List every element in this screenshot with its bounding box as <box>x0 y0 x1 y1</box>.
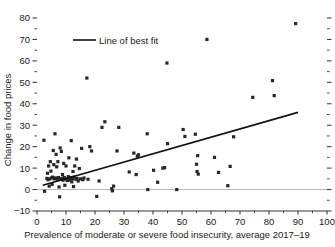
x-tick-label: 20 <box>90 216 101 227</box>
scatter-point <box>55 165 58 168</box>
y-axis-title: Change in food prices <box>2 74 13 167</box>
x-tick-label: 10 <box>61 216 72 227</box>
y-tick-label: 40 <box>19 98 30 109</box>
scatter-point <box>163 166 166 169</box>
y-tick-label: 0 <box>25 184 30 195</box>
scatter-point <box>100 126 103 129</box>
scatter-point <box>42 139 45 142</box>
y-tick-label: 30 <box>19 120 30 131</box>
x-axis-tick-labels: 0102030405060708090100 <box>34 216 335 227</box>
y-tick-label: 70 <box>19 34 30 45</box>
scatter-point <box>166 142 169 145</box>
legend-label-line-of-best-fit: Line of best fit <box>99 35 159 46</box>
scatter-point <box>146 188 149 191</box>
scatter-point <box>229 165 232 168</box>
chart-legend: Line of best fit <box>73 35 159 46</box>
x-axis-title: Prevalence of moderate or severe food in… <box>24 229 310 240</box>
scatter-point <box>251 96 254 99</box>
scatter-chart-figure: −1001020304050607080 0102030405060708090… <box>0 0 335 247</box>
scatter-point <box>52 149 55 152</box>
scatter-point <box>82 176 85 179</box>
x-tick-label: 50 <box>177 216 188 227</box>
scatter-point <box>67 156 70 159</box>
scatter-point <box>48 185 51 188</box>
y-tick-label: 50 <box>19 77 30 88</box>
scatter-point <box>152 169 155 172</box>
scatter-point <box>49 170 52 173</box>
scatter-point <box>73 164 76 167</box>
y-tick-label: −10 <box>14 205 30 216</box>
scatter-point <box>57 185 60 188</box>
scatter-point <box>88 145 91 148</box>
chart-canvas: −1001020304050607080 0102030405060708090… <box>0 0 335 247</box>
scatter-point <box>43 190 46 193</box>
scatter-point <box>156 181 159 184</box>
scatter-point <box>226 184 229 187</box>
scatter-point <box>115 149 118 152</box>
scatter-point <box>197 173 200 176</box>
scatter-point <box>135 173 138 176</box>
scatter-point <box>47 164 50 167</box>
y-axis-minor-ticks <box>34 29 37 201</box>
scatter-point <box>132 152 135 155</box>
scatter-points-group <box>42 22 297 198</box>
y-tick-label: 60 <box>19 55 30 66</box>
x-tick-label: 40 <box>148 216 159 227</box>
scatter-point <box>205 38 208 41</box>
scatter-point <box>58 195 61 198</box>
scatter-point <box>213 156 216 159</box>
scatter-point <box>273 94 276 97</box>
scatter-point <box>78 167 81 170</box>
x-tick-label: 30 <box>119 216 130 227</box>
scatter-point <box>55 153 58 156</box>
scatter-point <box>56 160 59 163</box>
scatter-point <box>75 158 78 161</box>
scatter-point <box>53 132 56 135</box>
scatter-point <box>182 128 185 131</box>
scatter-point <box>196 154 199 157</box>
scatter-point <box>86 178 89 181</box>
scatter-point <box>175 188 178 191</box>
scatter-point <box>112 185 115 188</box>
scatter-point <box>271 79 274 82</box>
scatter-point <box>52 163 55 166</box>
scatter-point <box>71 170 74 173</box>
scatter-point <box>72 185 75 188</box>
scatter-point <box>63 184 66 187</box>
scatter-point <box>97 179 100 182</box>
scatter-point <box>183 135 186 138</box>
scatter-point <box>137 153 140 156</box>
scatter-point <box>61 173 64 176</box>
scatter-point <box>111 189 114 192</box>
scatter-point <box>165 61 168 64</box>
scatter-point <box>194 133 197 136</box>
scatter-point <box>80 147 83 150</box>
x-axis-ticks <box>37 211 327 215</box>
scatter-point <box>146 132 149 135</box>
scatter-point <box>70 139 73 142</box>
scatter-point <box>85 76 88 79</box>
x-tick-label: 90 <box>293 216 304 227</box>
right-axis-minor-ticks <box>327 29 330 201</box>
x-tick-label: 0 <box>34 216 39 227</box>
y-tick-label: 80 <box>19 12 30 23</box>
scatter-point <box>60 150 63 153</box>
scatter-point <box>70 180 73 183</box>
scatter-point <box>128 170 131 173</box>
scatter-point <box>294 22 297 25</box>
scatter-point <box>117 126 120 129</box>
scatter-point <box>49 160 52 163</box>
x-axis: 0102030405060708090100 <box>34 211 335 227</box>
scatter-point <box>103 120 106 123</box>
x-tick-label: 60 <box>206 216 217 227</box>
x-tick-label: 100 <box>319 216 335 227</box>
scatter-point <box>46 172 49 175</box>
scatter-point <box>90 149 93 152</box>
x-tick-label: 80 <box>264 216 275 227</box>
x-tick-label: 70 <box>235 216 246 227</box>
scatter-point <box>232 135 235 138</box>
scatter-point <box>95 195 98 198</box>
scatter-point <box>64 164 67 167</box>
scatter-point <box>217 171 220 174</box>
scatter-point <box>59 146 62 149</box>
